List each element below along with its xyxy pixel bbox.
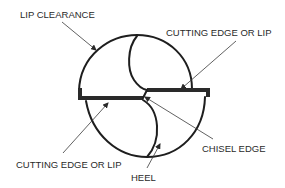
label-cutting-edge-bottom: CUTTING EDGE OR LIP: [16, 159, 122, 170]
cutting-edge-top-leader: [181, 41, 236, 89]
lower-outer-arc: [86, 97, 205, 157]
drill-point-diagram: LIP CLEARANCE CUTTING EDGE OR LIP CUTTIN…: [0, 0, 285, 188]
label-cutting-edge-top: CUTTING EDGE OR LIP: [166, 27, 272, 38]
label-lip-clearance: LIP CLEARANCE: [20, 9, 95, 20]
upper-inner-curve: [129, 36, 147, 90]
lower-cutting-edge-bar: [78, 96, 143, 100]
label-heel: HEEL: [131, 172, 156, 183]
cutting-edge-bottom-leader: [63, 103, 108, 153]
upper-cutting-edge-bar: [147, 88, 210, 92]
lower-inner-curve: [143, 100, 157, 157]
chisel-edge-line: [143, 90, 147, 98]
lower-bar-tab: [78, 88, 82, 99]
lip-clearance-leader: [62, 22, 96, 50]
label-chisel-edge: CHISEL EDGE: [202, 143, 266, 154]
upper-bar-tab: [206, 88, 210, 97]
